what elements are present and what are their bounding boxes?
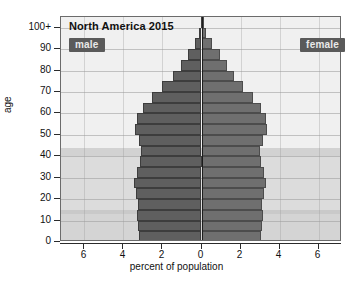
x-tick-label: 6: [73, 249, 93, 260]
y-tick-label: 40: [40, 149, 51, 160]
y-tick-label: 0: [45, 235, 51, 246]
x-tick-label: 2: [151, 249, 171, 260]
y-tick-mark: [54, 155, 60, 156]
x-tick-label: 0: [191, 249, 211, 260]
x-tick-mark: [122, 243, 123, 249]
y-tick-label: 80: [40, 64, 51, 75]
y-tick-mark: [54, 220, 60, 221]
chart-title: North America 2015: [69, 20, 174, 32]
x-tick-mark: [279, 243, 280, 249]
y-tick-mark: [54, 70, 60, 71]
x-axis-label: percent of population: [0, 261, 353, 272]
y-tick-label: 20: [40, 192, 51, 203]
y-tick-mark: [54, 27, 60, 28]
y-tick-label: 30: [40, 171, 51, 182]
x-tick-mark: [83, 243, 84, 249]
y-tick-mark: [54, 241, 60, 242]
x-tick-label: 6: [308, 249, 328, 260]
population-pyramid-chart: North America 2015 male female 010203040…: [0, 0, 353, 282]
x-tick-label: 4: [269, 249, 289, 260]
legend-badge-male: male: [69, 38, 105, 52]
x-tick-mark: [318, 243, 319, 249]
y-tick-label: 60: [40, 106, 51, 117]
x-tick-label: 2: [230, 249, 250, 260]
legend-badge-female: female: [300, 38, 345, 52]
y-tick-mark: [54, 134, 60, 135]
y-axis-label: age: [2, 96, 13, 113]
y-tick-mark: [54, 48, 60, 49]
y-tick-mark: [54, 112, 60, 113]
y-tick-label: 70: [40, 85, 51, 96]
x-tick-label: 4: [112, 249, 132, 260]
y-tick-mark: [54, 198, 60, 199]
zero-line: [202, 17, 203, 240]
x-tick-mark: [201, 243, 202, 249]
y-tick-mark: [54, 177, 60, 178]
y-tick-label: 100+: [28, 21, 51, 32]
y-tick-label: 90: [40, 42, 51, 53]
y-tick-label: 10: [40, 214, 51, 225]
x-tick-mark: [240, 243, 241, 249]
y-tick-mark: [54, 91, 60, 92]
y-tick-label: 50: [40, 128, 51, 139]
x-tick-mark: [161, 243, 162, 249]
